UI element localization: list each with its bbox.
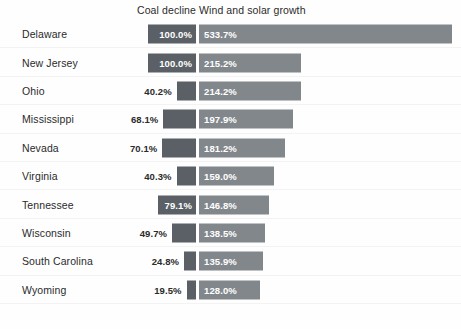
coal-decline-bar-group: 79.1% [0,195,196,214]
wind-solar-growth-bar: 159.0% [199,167,274,186]
coal-decline-bar: 79.1% [158,195,196,214]
table-row: Tennessee79.1%146.8% [0,190,461,218]
coal-decline-bar [162,138,196,157]
coal-decline-bar-group: 100.0% [0,25,196,44]
wind-solar-growth-bar: 181.2% [199,138,285,157]
coal-decline-value: 68.1% [131,114,158,125]
coal-decline-value: 40.3% [144,171,171,182]
coal-decline-value: 24.8% [152,256,179,267]
coal-decline-bar [163,110,196,129]
wind-solar-growth-value: 215.2% [204,57,237,68]
column-headers: Coal decline Wind and solar growth [0,0,461,20]
chart-container: Coal decline Wind and solar growth Delaw… [0,0,461,329]
wind-solar-growth-bar: 128.0% [199,280,260,299]
coal-decline-bar-group [0,110,196,129]
coal-decline-bar [177,81,196,100]
wind-solar-growth-value: 146.8% [204,199,237,210]
table-row: New Jersey100.0%215.2% [0,48,461,76]
table-row: Mississippi68.1%197.9% [0,105,461,133]
column-header-coal-decline: Coal decline [137,4,196,16]
coal-decline-value: 49.7% [140,227,167,238]
coal-decline-bar: 100.0% [148,25,196,44]
coal-decline-bar-group: 100.0% [0,53,196,72]
coal-decline-value: 19.5% [154,284,181,295]
coal-decline-bar [177,167,196,186]
coal-decline-value: 70.1% [130,142,157,153]
wind-solar-growth-value: 128.0% [204,284,237,295]
wind-solar-growth-bar: 197.9% [199,110,293,129]
coal-decline-bar [187,280,196,299]
wind-solar-growth-value: 533.7% [204,29,237,40]
wind-solar-growth-value: 138.5% [204,227,237,238]
table-row: Ohio40.2%214.2% [0,77,461,105]
wind-solar-growth-bar: 533.7% [199,25,452,44]
wind-solar-growth-bar: 146.8% [199,195,269,214]
table-row: Virginia40.3%159.0% [0,162,461,190]
table-row: Delaware100.0%533.7% [0,20,461,48]
wind-solar-growth-value: 214.2% [204,85,237,96]
wind-solar-growth-value: 197.9% [204,114,237,125]
coal-decline-bar-group [0,138,196,157]
coal-decline-value: 40.2% [144,85,171,96]
coal-decline-value: 100.0% [159,29,192,40]
table-row: South Carolina24.8%135.9% [0,247,461,275]
wind-solar-growth-value: 159.0% [204,171,237,182]
wind-solar-growth-bar: 138.5% [199,223,265,242]
table-row: Nevada70.1%181.2% [0,134,461,162]
wind-solar-growth-bar: 135.9% [199,252,263,271]
row-divider [0,303,461,304]
coal-decline-value: 100.0% [159,57,192,68]
table-row: Wisconsin49.7%138.5% [0,219,461,247]
wind-solar-growth-value: 181.2% [204,142,237,153]
chart-rows: Delaware100.0%533.7%New Jersey100.0%215.… [0,20,461,304]
coal-decline-bar [184,252,196,271]
column-header-wind-solar-growth: Wind and solar growth [199,4,306,16]
wind-solar-growth-bar: 215.2% [199,53,301,72]
table-row: Wyoming19.5%128.0% [0,276,461,304]
coal-decline-bar [172,223,196,242]
wind-solar-growth-value: 135.9% [204,256,237,267]
wind-solar-growth-bar: 214.2% [199,81,301,100]
coal-decline-value: 79.1% [165,199,192,210]
coal-decline-bar: 100.0% [148,53,196,72]
